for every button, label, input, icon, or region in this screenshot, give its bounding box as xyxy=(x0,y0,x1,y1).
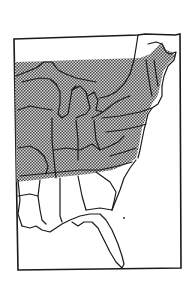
range-map xyxy=(0,0,189,285)
speckle xyxy=(123,217,125,219)
